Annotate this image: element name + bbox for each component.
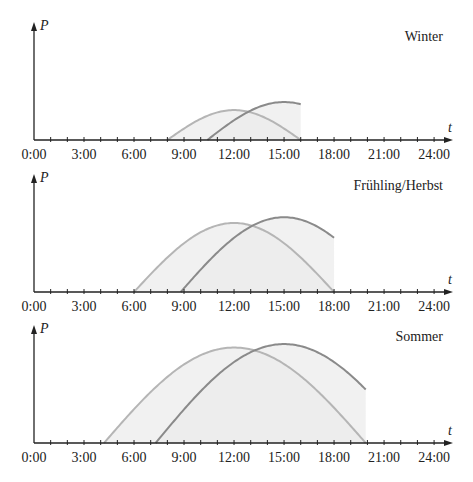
panel-title: Winter xyxy=(405,29,444,44)
x-axis-arrow-icon xyxy=(444,289,453,295)
x-tick-label: 18:00 xyxy=(318,147,350,162)
x-tick-label: 9:00 xyxy=(172,299,197,314)
x-tick-label: 15:00 xyxy=(268,299,300,314)
x-tick-label: 12:00 xyxy=(218,299,250,314)
y-axis-arrow-icon xyxy=(31,325,37,334)
y-axis-arrow-icon xyxy=(31,174,37,183)
x-tick-label: 21:00 xyxy=(368,450,400,465)
x-tick-label: 18:00 xyxy=(318,299,350,314)
x-tick-label: 9:00 xyxy=(172,147,197,162)
x-tick-label: 15:00 xyxy=(268,147,300,162)
chart-figure: 0:003:006:009:0012:0015:0018:0021:0024:0… xyxy=(0,0,473,482)
x-tick-label: 6:00 xyxy=(122,147,147,162)
x-tick-label: 0:00 xyxy=(22,450,47,465)
x-axis-label: t xyxy=(448,423,453,438)
x-axis-arrow-icon xyxy=(444,137,453,143)
x-tick-label: 9:00 xyxy=(172,450,197,465)
x-axis-label: t xyxy=(448,272,453,287)
x-tick-label: 3:00 xyxy=(72,299,97,314)
x-tick-label: 24:00 xyxy=(418,299,450,314)
x-tick-label: 3:00 xyxy=(72,147,97,162)
x-tick-label: 15:00 xyxy=(268,450,300,465)
x-tick-label: 6:00 xyxy=(122,450,147,465)
panel-1: 0:003:006:009:0012:0015:0018:0021:0024:0… xyxy=(22,18,453,162)
panel-title: Sommer xyxy=(396,329,444,344)
y-axis-label: P xyxy=(39,321,49,336)
panel-title: Frühling/Herbst xyxy=(354,178,444,193)
x-tick-label: 18:00 xyxy=(318,450,350,465)
chart-canvas: 0:003:006:009:0012:0015:0018:0021:0024:0… xyxy=(0,0,473,482)
x-tick-label: 6:00 xyxy=(122,299,147,314)
y-axis-label: P xyxy=(39,18,49,33)
x-tick-label: 12:00 xyxy=(218,147,250,162)
y-axis-arrow-icon xyxy=(31,22,37,31)
x-tick-label: 12:00 xyxy=(218,450,250,465)
x-tick-label: 21:00 xyxy=(368,147,400,162)
y-axis-label: P xyxy=(39,170,49,185)
x-tick-label: 24:00 xyxy=(418,147,450,162)
x-axis-arrow-icon xyxy=(444,440,453,446)
x-tick-label: 24:00 xyxy=(418,450,450,465)
panel-2: 0:003:006:009:0012:0015:0018:0021:0024:0… xyxy=(22,170,453,314)
panel-3: 0:003:006:009:0012:0015:0018:0021:0024:0… xyxy=(22,321,453,465)
x-tick-label: 3:00 xyxy=(72,450,97,465)
x-tick-label: 0:00 xyxy=(22,147,47,162)
x-tick-label: 21:00 xyxy=(368,299,400,314)
x-axis-label: t xyxy=(448,120,453,135)
x-tick-label: 0:00 xyxy=(22,299,47,314)
